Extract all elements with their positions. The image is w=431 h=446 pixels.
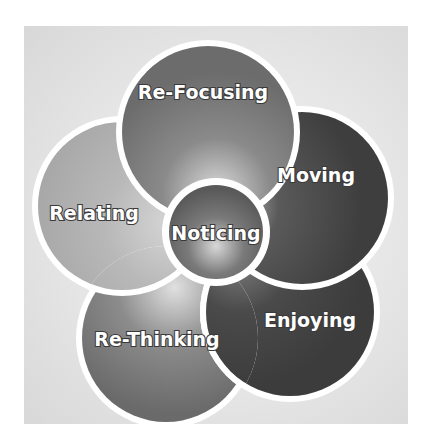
label-re-focusing: Re-Focusing	[138, 81, 268, 103]
label-re-thinking: Re-Thinking	[94, 328, 219, 350]
label-moving: Moving	[277, 164, 355, 186]
label-relating: Relating	[49, 202, 139, 224]
label-noticing: Noticing	[171, 222, 260, 244]
label-enjoying: Enjoying	[264, 309, 356, 331]
cycle-diagram: Re-Focusing Moving Enjoying Re-Thinking …	[0, 0, 431, 446]
